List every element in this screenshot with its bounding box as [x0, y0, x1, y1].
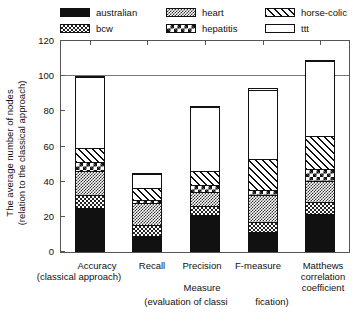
bar-segment-horse-colic	[76, 148, 104, 162]
x-tick-mark-top	[90, 41, 91, 45]
bar-segment-australian	[133, 236, 161, 251]
legend-entry-bcw: bcw	[60, 24, 113, 34]
y-tick-mark	[61, 75, 65, 76]
x-tick-label-matthews-line2: correlation	[290, 271, 356, 282]
legend-swatch-heart-icon	[166, 8, 196, 17]
legend-entry-horse-colic: horse-colic	[265, 8, 347, 18]
bar-segment-horse-colic	[191, 171, 219, 185]
x-axis-title-part1: Measure	[168, 282, 236, 293]
y-tick-mark	[61, 181, 65, 182]
legend-entry-ttt: ttt	[265, 24, 309, 34]
bar-segment-australian	[191, 215, 219, 251]
bar-segment-heart	[191, 192, 219, 206]
chart-figure: australian bcw heart hepatitis horse-col…	[0, 0, 360, 314]
y-tick-label-40: 40	[20, 177, 54, 187]
bar-segment-heart	[133, 203, 161, 225]
y-tick-label-80: 80	[20, 106, 54, 116]
bar-segment-bcw	[191, 206, 219, 215]
bar-segment-ttt	[76, 77, 104, 148]
stacked-bar-accuracy	[75, 76, 105, 252]
bar-segment-hepatitis	[76, 162, 104, 171]
x-tick-mark-top	[320, 41, 321, 45]
plot-area	[60, 40, 350, 253]
stacked-bar-recall	[132, 173, 162, 252]
bar-segment-horse-colic	[306, 136, 334, 169]
x-tick-label-f-measure: F-measure	[222, 260, 294, 271]
legend-label-heart: heart	[202, 8, 224, 18]
bar-segment-horse-colic	[133, 188, 161, 200]
legend-label-horse-colic: horse-colic	[301, 8, 347, 18]
y-axis-title: The average number of nodes (relation to…	[4, 53, 28, 253]
bar-segment-horse-colic	[249, 159, 277, 190]
y-tick-label-120: 120	[20, 36, 54, 46]
bar-segment-australian	[306, 214, 334, 251]
chart-legend: australian bcw heart hepatitis horse-col…	[60, 8, 356, 38]
legend-label-australian: australian	[96, 8, 137, 18]
y-tick-label-20: 20	[20, 212, 54, 222]
bar-segment-bcw	[249, 222, 277, 232]
bar-segment-ttt	[249, 90, 277, 159]
y-tick-mark	[61, 216, 65, 217]
legend-entry-australian: australian	[60, 8, 137, 18]
bar-segment-hepatitis	[249, 190, 277, 195]
bar-segment-hepatitis	[133, 200, 161, 203]
legend-label-ttt: ttt	[301, 24, 309, 34]
bar-segment-ttt	[133, 174, 161, 188]
y-tick-label-100: 100	[20, 71, 54, 81]
bar-segment-hepatitis	[191, 185, 219, 192]
stacked-bar-precision	[190, 106, 220, 252]
bar-segment-bcw	[133, 225, 161, 236]
bar-segment-ttt	[191, 107, 219, 171]
y-tick-mark	[61, 251, 65, 252]
legend-swatch-australian-icon	[60, 8, 90, 17]
bar-segment-ttt	[306, 61, 334, 136]
bar-segment-heart	[306, 181, 334, 203]
x-axis-labels: Accuracy (classical approach) Recall Pre…	[0, 256, 360, 314]
x-tick-mark-top	[205, 41, 206, 45]
y-tick-label-60: 60	[20, 142, 54, 152]
legend-swatch-horse-colic-icon	[265, 8, 295, 17]
legend-label-bcw: bcw	[96, 24, 113, 34]
legend-entry-hepatitis: hepatitis	[166, 24, 237, 34]
bar-segment-hepatitis	[306, 169, 334, 180]
bar-segment-bcw	[76, 195, 104, 207]
y-tick-mark	[61, 110, 65, 111]
legend-label-hepatitis: hepatitis	[202, 24, 237, 34]
y-tick-mark	[61, 40, 65, 41]
bar-segment-heart	[76, 171, 104, 195]
bar-segment-australian	[249, 232, 277, 251]
legend-swatch-hepatitis-icon	[166, 24, 196, 33]
stacked-bar-matthews-correlation-coefficient	[305, 60, 335, 252]
legend-swatch-ttt-icon	[265, 24, 295, 33]
y-axis-title-line2: (relation to the classical approach)	[16, 53, 28, 253]
x-tick-label-matthews-line3: coefficient	[290, 282, 356, 293]
legend-entry-heart: heart	[166, 8, 224, 18]
bar-segment-bcw	[306, 202, 334, 214]
bar-segment-australian	[76, 208, 104, 251]
x-axis-title-part2: (evaluation of classi	[118, 296, 254, 307]
bar-segment-heart	[249, 195, 277, 221]
stacked-bar-f-measure	[248, 88, 278, 252]
x-tick-sublabel-accuracy: (classical approach)	[4, 271, 154, 282]
y-tick-mark	[61, 146, 65, 147]
x-tick-mark-top	[263, 41, 264, 45]
y-axis-title-line1: The average number of nodes	[4, 53, 16, 253]
legend-swatch-bcw-icon	[60, 24, 90, 33]
x-axis-title-part3: fication)	[244, 296, 300, 307]
x-tick-label-matthews-line1: Matthews	[290, 260, 356, 271]
x-tick-mark-top	[147, 41, 148, 45]
